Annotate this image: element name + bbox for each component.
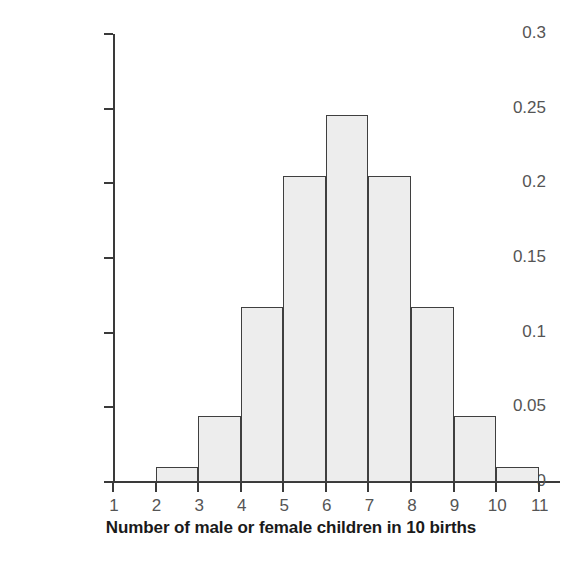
y-axis-tick-label: 0.1 — [486, 322, 546, 342]
x-axis-tick-label: 6 — [307, 496, 347, 516]
y-axis-tick-label: 0.2 — [486, 172, 546, 192]
x-axis-tick-label: 2 — [137, 496, 177, 516]
x-axis-tick-label: 3 — [179, 496, 219, 516]
x-axis-tick-label: 9 — [435, 496, 475, 516]
x-axis-tick — [240, 481, 242, 492]
y-axis-tick-label: 0.05 — [486, 396, 546, 416]
histogram-bar — [496, 467, 539, 482]
x-axis-tick — [112, 481, 114, 492]
x-axis-tick — [282, 481, 284, 492]
y-axis-tick — [104, 182, 113, 184]
histogram-bar — [454, 416, 497, 482]
probability-histogram-figure: Probability 00.050.10.150.20.250.3 12345… — [0, 0, 582, 565]
y-axis-tick — [104, 33, 113, 35]
y-axis-line — [113, 34, 115, 483]
y-axis-tick — [104, 257, 113, 259]
x-axis-tick — [155, 481, 157, 492]
x-axis-tick-label: 1 — [94, 496, 134, 516]
histogram-bar — [326, 115, 369, 483]
histogram-bar — [156, 467, 199, 482]
x-axis-tick-label: 11 — [520, 496, 560, 516]
y-axis-tick-label: 0.3 — [486, 23, 546, 43]
y-axis-tick-label: 0.15 — [486, 247, 546, 267]
histogram-bar — [283, 176, 326, 482]
plot-area: 00.050.10.150.20.250.3 1234567891011 — [113, 34, 560, 482]
x-axis-tick-label: 10 — [477, 496, 517, 516]
x-axis-tick — [453, 481, 455, 492]
y-axis-tick-label: 0.25 — [486, 98, 546, 118]
x-axis-tick-label: 7 — [349, 496, 389, 516]
x-axis-title: Number of male or female children in 10 … — [0, 518, 582, 538]
y-axis-tick — [104, 108, 113, 110]
histogram-bar — [411, 307, 454, 482]
x-axis-tick-label: 5 — [264, 496, 304, 516]
x-axis-tick — [325, 481, 327, 492]
x-axis-tick — [495, 481, 497, 492]
x-axis-tick — [197, 481, 199, 492]
histogram-bar — [368, 176, 411, 482]
x-axis-tick — [538, 481, 540, 492]
y-axis-tick — [104, 332, 113, 334]
histogram-bar — [198, 416, 241, 482]
histogram-bar — [241, 307, 284, 482]
x-axis-tick-label: 8 — [392, 496, 432, 516]
x-axis-tick — [410, 481, 412, 492]
x-axis-tick — [367, 481, 369, 492]
y-axis-tick — [104, 406, 113, 408]
x-axis-tick-label: 4 — [222, 496, 262, 516]
